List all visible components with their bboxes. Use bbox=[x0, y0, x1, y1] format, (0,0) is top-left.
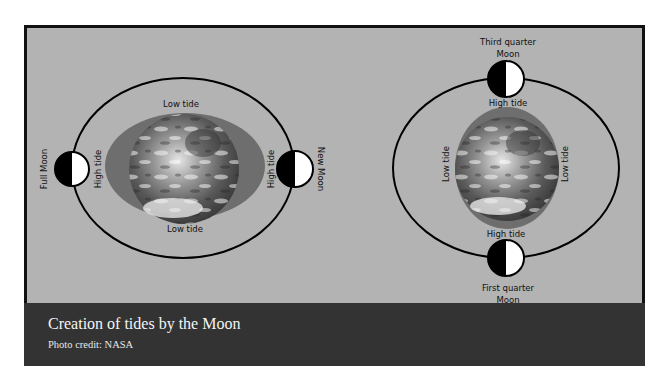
first-quarter-label-line2: Moon bbox=[496, 295, 519, 303]
left-high-tide-right: High tide bbox=[266, 150, 276, 189]
left-earth-icon bbox=[129, 114, 239, 224]
diagram-panel: Full Moon New Moon Low tide Low tide Hig… bbox=[24, 25, 645, 303]
right-low-tide-right: Low tide bbox=[560, 146, 570, 182]
right-low-tide-left: Low tide bbox=[441, 146, 451, 182]
new-moon-icon bbox=[277, 151, 313, 187]
right-high-tide-top: High tide bbox=[489, 98, 528, 108]
caption-bar: Creation of tides by the Moon Photo cred… bbox=[24, 303, 645, 366]
left-low-tide-bottom: Low tide bbox=[167, 224, 203, 234]
right-high-tide-bottom: High tide bbox=[487, 229, 526, 239]
tides-figure: Full Moon New Moon Low tide Low tide Hig… bbox=[24, 25, 645, 366]
caption-title: Creation of tides by the Moon bbox=[48, 315, 240, 333]
third-quarter-label-line1: Third quarter bbox=[479, 37, 536, 47]
full-moon-label: Full Moon bbox=[39, 149, 49, 189]
right-earth-icon bbox=[455, 117, 559, 221]
right-diagram: Third quarter Moon First quarter Moon Hi… bbox=[393, 37, 619, 303]
third-quarter-moon-icon bbox=[488, 61, 524, 97]
left-high-tide-left: High tide bbox=[93, 150, 103, 189]
left-diagram: Full Moon New Moon Low tide Low tide Hig… bbox=[39, 78, 326, 258]
tides-diagram: Full Moon New Moon Low tide Low tide Hig… bbox=[24, 25, 645, 303]
left-low-tide-top: Low tide bbox=[163, 99, 199, 109]
first-quarter-label-line1: First quarter bbox=[482, 283, 535, 293]
third-quarter-label-line2: Moon bbox=[496, 49, 519, 59]
first-quarter-moon-icon bbox=[488, 240, 524, 276]
photo-credit: Photo credit: NASA bbox=[48, 339, 133, 350]
full-moon-icon bbox=[55, 152, 89, 186]
new-moon-label: New Moon bbox=[316, 147, 326, 191]
